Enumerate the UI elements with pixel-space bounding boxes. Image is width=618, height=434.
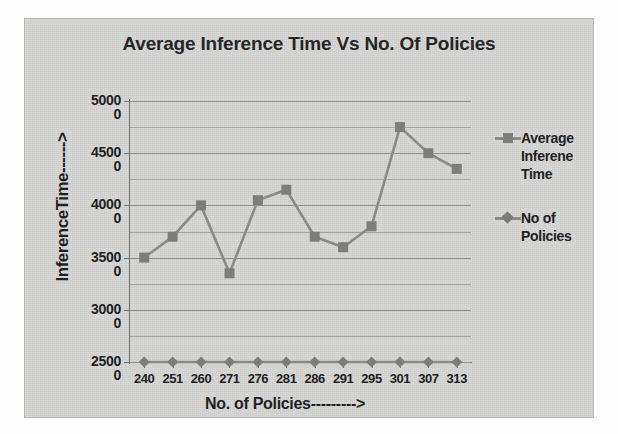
data-point-diamond bbox=[423, 357, 434, 368]
data-point-diamond bbox=[338, 357, 349, 368]
chart-title: Average Inference Time Vs No. Of Policie… bbox=[25, 33, 593, 55]
y-axis-tick-label: 35000 bbox=[59, 250, 121, 278]
data-point-square bbox=[225, 268, 235, 278]
y-axis-tick-label: 25000 bbox=[59, 354, 121, 382]
data-point-diamond bbox=[252, 357, 263, 368]
legend: AverageInfereneTimeNo ofPolicies bbox=[495, 129, 600, 271]
legend-entry[interactable]: No ofPolicies bbox=[495, 209, 600, 245]
legend-entry[interactable]: AverageInfereneTime bbox=[495, 129, 600, 183]
data-point-square bbox=[338, 242, 348, 252]
plot-area bbox=[130, 101, 471, 362]
data-point-diamond bbox=[309, 357, 320, 368]
legend-square-marker-icon bbox=[495, 131, 521, 145]
series-2 bbox=[139, 357, 463, 368]
data-point-square bbox=[395, 122, 405, 132]
y-axis-tick-label: 50000 bbox=[59, 93, 121, 121]
data-point-square bbox=[452, 164, 462, 174]
data-point-diamond bbox=[139, 357, 150, 368]
legend-label: No ofPolicies bbox=[521, 209, 572, 245]
data-point-square bbox=[281, 185, 291, 195]
data-point-square bbox=[423, 148, 433, 158]
y-axis-tick-label: 30000 bbox=[59, 302, 121, 330]
data-point-diamond bbox=[167, 357, 178, 368]
data-series-layer bbox=[130, 101, 471, 362]
series-line bbox=[144, 127, 457, 273]
y-axis-tick-label: 40000 bbox=[59, 197, 121, 225]
data-point-diamond bbox=[366, 357, 377, 368]
legend-label: AverageInfereneTime bbox=[521, 129, 574, 183]
data-point-square bbox=[168, 232, 178, 242]
data-point-diamond bbox=[394, 357, 405, 368]
data-point-diamond bbox=[451, 357, 462, 368]
data-point-square bbox=[310, 232, 320, 242]
data-point-square bbox=[139, 253, 149, 263]
x-axis-tick-label: 313 bbox=[440, 371, 474, 386]
data-point-square bbox=[253, 195, 263, 205]
data-point-square bbox=[367, 221, 377, 231]
series-1 bbox=[139, 122, 462, 278]
chart-panel: Average Inference Time Vs No. Of Policie… bbox=[24, 18, 594, 418]
data-point-diamond bbox=[281, 357, 292, 368]
legend-diamond-marker-icon bbox=[495, 211, 521, 225]
y-axis-tick-label: 45000 bbox=[59, 145, 121, 173]
chart-screenshot: Average Inference Time Vs No. Of Policie… bbox=[0, 0, 618, 434]
data-point-diamond bbox=[224, 357, 235, 368]
data-point-square bbox=[196, 200, 206, 210]
x-axis-title: No. of Policies---------> bbox=[85, 395, 485, 413]
data-point-diamond bbox=[196, 357, 207, 368]
